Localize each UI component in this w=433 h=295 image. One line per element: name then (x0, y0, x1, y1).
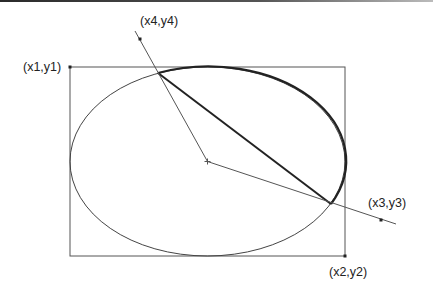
label-p1: (x1,y1) (23, 61, 61, 74)
label-p4: (x4,y4) (140, 15, 178, 28)
label-p2: (x2,y2) (329, 266, 367, 279)
point-marker-p1 (69, 66, 72, 69)
ellipse-arc-diagram (0, 0, 433, 295)
point-marker-p4 (139, 38, 142, 41)
radial-line-p4 (135, 31, 208, 162)
point-marker-p3 (380, 219, 383, 222)
bold-arc (158, 66, 346, 204)
label-p3: (x3,y3) (368, 197, 406, 210)
radial-line-p3 (208, 162, 397, 225)
point-marker-p2 (344, 255, 347, 258)
